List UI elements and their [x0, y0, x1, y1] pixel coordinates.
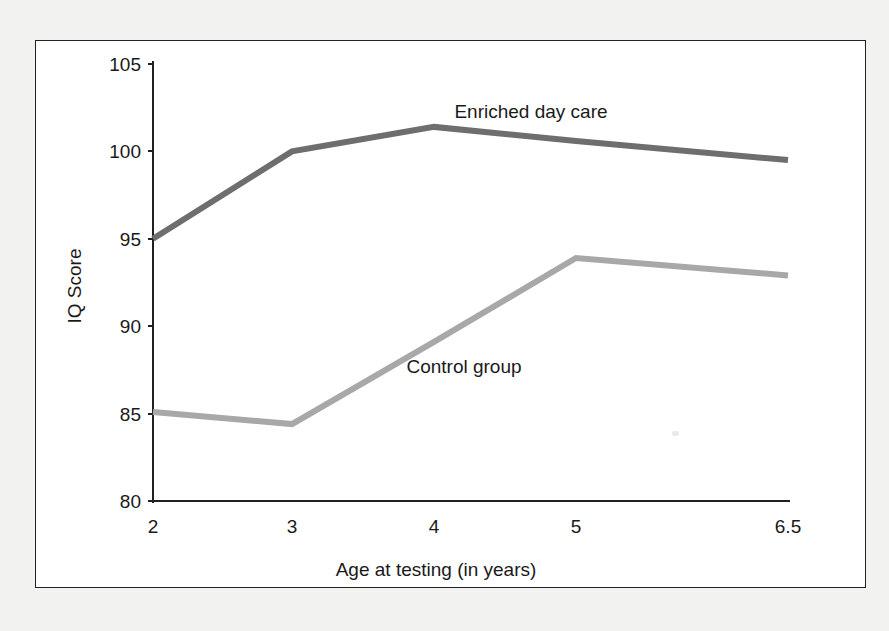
- scan-smudge: [672, 431, 679, 436]
- x-tick-label-2: 2: [148, 516, 159, 537]
- y-tick-label-95: 95: [120, 229, 141, 250]
- y-tick-label-100: 100: [109, 141, 141, 162]
- y-tick-label-90: 90: [120, 316, 141, 337]
- y-tick-label-85: 85: [120, 404, 141, 425]
- y-tick-label-80: 80: [120, 491, 141, 512]
- x-tick-label-5: 5: [571, 516, 582, 537]
- x-tick-label-6-5: 6.5: [775, 516, 801, 537]
- figure-frame: 105 100 95 90 85 80 2 3 4 5 6.5 Age at t…: [35, 40, 866, 588]
- y-axis-title: IQ Score: [64, 249, 85, 324]
- x-tick-label-4: 4: [429, 516, 440, 537]
- chart-svg: 105 100 95 90 85 80 2 3 4 5 6.5 Age at t…: [36, 41, 867, 589]
- series-line-control-group: [153, 258, 788, 424]
- x-tick-label-3: 3: [287, 516, 298, 537]
- y-tick-label-105: 105: [109, 54, 141, 75]
- line-chart: 105 100 95 90 85 80 2 3 4 5 6.5 Age at t…: [36, 41, 867, 589]
- x-axis-title: Age at testing (in years): [336, 559, 537, 580]
- series-line-enriched-day-care: [153, 127, 788, 239]
- series-label-control-group: Control group: [406, 356, 521, 377]
- series-label-enriched-day-care: Enriched day care: [454, 101, 607, 122]
